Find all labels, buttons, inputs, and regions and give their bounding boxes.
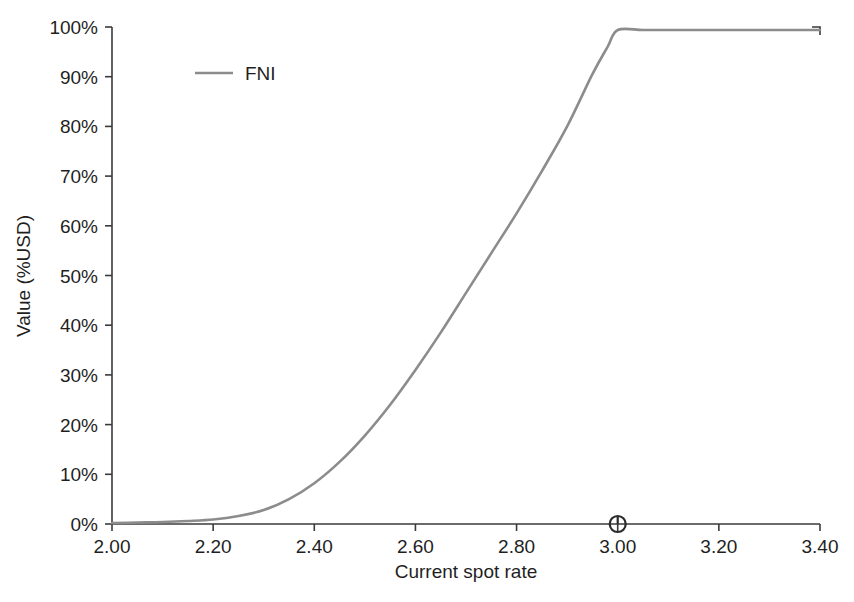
x-tick-label: 2.60 xyxy=(397,536,434,557)
y-tick-label: 80% xyxy=(60,116,98,137)
x-axis-title: Current spot rate xyxy=(395,561,538,582)
chart-container: 0%10%20%30%40%50%60%70%80%90%100% 2.002.… xyxy=(0,0,854,602)
y-tick-label: 100% xyxy=(49,17,98,38)
y-tick-label: 0% xyxy=(71,514,99,535)
series-group xyxy=(112,29,820,523)
y-tick-label: 70% xyxy=(60,166,98,187)
axes-group xyxy=(112,27,820,524)
series-line-fni xyxy=(112,29,820,523)
x-tick-label: 3.20 xyxy=(700,536,737,557)
y-axis-ticks: 0%10%20%30%40%50%60%70%80%90%100% xyxy=(49,17,112,535)
legend: FNI xyxy=(195,63,276,84)
y-tick-label: 90% xyxy=(60,67,98,88)
x-tick-label: 2.40 xyxy=(296,536,333,557)
y-tick-label: 20% xyxy=(60,415,98,436)
y-tick-label: 60% xyxy=(60,216,98,237)
x-axis-ticks: 2.002.202.402.602.803.003.203.40 xyxy=(94,524,839,557)
x-tick-label: 2.00 xyxy=(94,536,131,557)
x-tick-label: 2.80 xyxy=(498,536,535,557)
line-chart: 0%10%20%30%40%50%60%70%80%90%100% 2.002.… xyxy=(0,0,854,602)
y-tick-label: 10% xyxy=(60,464,98,485)
legend-label-fni: FNI xyxy=(245,63,276,84)
y-tick-label: 50% xyxy=(60,266,98,287)
x-tick-label: 3.00 xyxy=(599,536,636,557)
y-axis-title: Value (%USD) xyxy=(13,215,34,337)
y-tick-label: 30% xyxy=(60,365,98,386)
y-tick-label: 40% xyxy=(60,315,98,336)
x-tick-label: 2.20 xyxy=(195,536,232,557)
x-tick-label: 3.40 xyxy=(802,536,839,557)
